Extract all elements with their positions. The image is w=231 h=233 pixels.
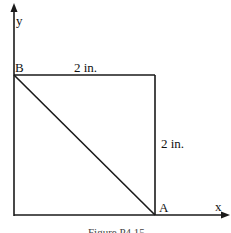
right-dimension-label: 2 in. xyxy=(161,137,184,150)
diagram-figure xyxy=(0,0,231,233)
top-dimension-label: 2 in. xyxy=(74,61,97,74)
figure-caption: Figure P4.15 xyxy=(88,226,145,233)
point-b-label: B xyxy=(15,61,24,74)
y-axis-label: y xyxy=(16,14,23,27)
diagonal-b-to-a xyxy=(14,75,155,215)
x-axis-arrowhead-icon xyxy=(221,212,230,219)
y-axis-arrowhead-icon xyxy=(11,3,18,12)
x-axis-label: x xyxy=(215,200,222,213)
point-a-label: A xyxy=(159,201,168,214)
